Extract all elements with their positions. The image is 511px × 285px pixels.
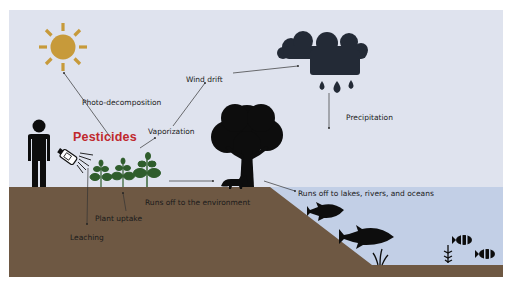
label-leaching: Leaching bbox=[70, 234, 104, 242]
pesticide-fate-diagram: Pesticides Photo-decomposition Wind drif… bbox=[9, 10, 503, 277]
pesticides-title: Pesticides bbox=[73, 131, 137, 144]
label-wind-drift: Wind drift bbox=[186, 76, 223, 84]
label-runs-off-water: Runs off to lakes, rivers, and oceans bbox=[298, 190, 434, 198]
label-runs-off-environment: Runs off to the environment bbox=[145, 199, 250, 207]
label-vaporization: Vaporization bbox=[148, 128, 195, 136]
label-photo-decomposition: Photo-decomposition bbox=[82, 99, 161, 107]
label-precipitation: Precipitation bbox=[346, 114, 393, 122]
label-plant-uptake: Plant uptake bbox=[95, 215, 142, 223]
sun-icon bbox=[39, 23, 87, 71]
